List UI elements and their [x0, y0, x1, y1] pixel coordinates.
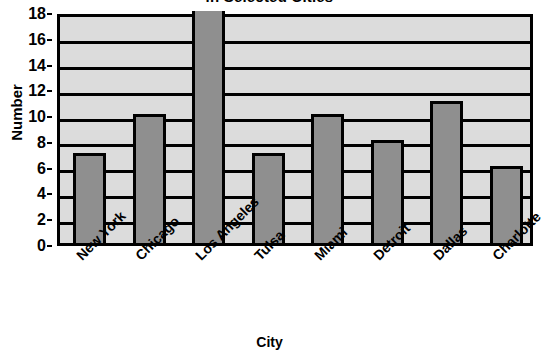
- x-axis-ticks: New YorkChicagoLos AngelesTulsaMiamiDetr…: [57, 246, 533, 326]
- chart-title: in Selected Cities: [0, 0, 539, 5]
- bar: [192, 11, 225, 243]
- y-tick-mark: [47, 219, 52, 221]
- y-tick-label: 18: [28, 6, 46, 22]
- y-tick-mark: [47, 13, 52, 15]
- y-tick-mark: [47, 193, 52, 195]
- x-axis-title: City: [0, 334, 539, 350]
- y-tick-label: 2: [37, 212, 46, 228]
- y-tick-label: 10: [28, 109, 46, 125]
- y-tick-label: 16: [28, 32, 46, 48]
- y-tick-label: 6: [37, 161, 46, 177]
- y-tick-label: 4: [37, 186, 46, 202]
- bars-series: [60, 17, 530, 243]
- y-axis-title: Number: [8, 73, 25, 153]
- y-tick-mark: [47, 116, 52, 118]
- y-tick-mark: [47, 142, 52, 144]
- y-tick-label: 12: [28, 83, 46, 99]
- y-tick-label: 14: [28, 58, 46, 74]
- y-tick-mark: [47, 90, 52, 92]
- y-tick-mark: [47, 168, 52, 170]
- y-tick-mark: [47, 65, 52, 67]
- y-tick-label: 8: [37, 135, 46, 151]
- plot-area: [57, 14, 533, 246]
- y-tick-label: 0: [37, 238, 46, 254]
- y-tick-mark: [47, 39, 52, 41]
- y-tick-mark: [47, 245, 52, 247]
